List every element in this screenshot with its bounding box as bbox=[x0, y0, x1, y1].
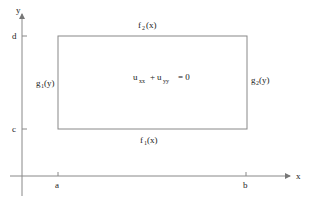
tick-label-a: a bbox=[55, 180, 59, 190]
svg-text:(x): (x) bbox=[147, 135, 158, 145]
svg-text:(y): (y) bbox=[259, 75, 270, 85]
svg-text:(y): (y) bbox=[44, 78, 55, 88]
boundary-label-right: g 2 (y) bbox=[251, 75, 270, 86]
y-axis-label: y bbox=[16, 5, 21, 15]
svg-text:u: u bbox=[157, 72, 162, 82]
diagram-canvas: y x d c a b f 2 (x) f 1 (x) g 1 (y) g 2 … bbox=[0, 0, 309, 208]
tick-label-b: b bbox=[243, 180, 248, 190]
tick-label-c: c bbox=[12, 124, 16, 134]
boundary-label-left: g 1 (y) bbox=[36, 78, 55, 89]
svg-text:+: + bbox=[150, 72, 155, 82]
svg-text:2: 2 bbox=[142, 25, 145, 31]
svg-text:f: f bbox=[138, 20, 141, 30]
svg-text:yy: yy bbox=[163, 78, 169, 84]
x-axis-label: x bbox=[296, 171, 301, 181]
domain-rectangle bbox=[58, 36, 247, 129]
svg-text:f: f bbox=[140, 135, 143, 145]
laplace-equation: u xx + u yy = 0 bbox=[133, 72, 190, 84]
tick-label-d: d bbox=[12, 31, 17, 41]
svg-text:= 0: = 0 bbox=[178, 72, 190, 82]
boundary-label-top: f 2 (x) bbox=[138, 20, 157, 31]
boundary-label-bottom: f 1 (x) bbox=[140, 135, 158, 146]
svg-text:(x): (x) bbox=[146, 20, 157, 30]
svg-text:u: u bbox=[133, 72, 138, 82]
svg-text:xx: xx bbox=[139, 78, 145, 84]
